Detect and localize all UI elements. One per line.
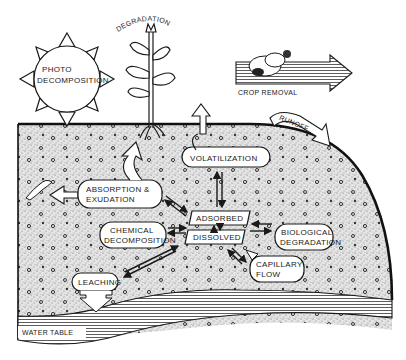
capillary-flow-label-2: FLOW xyxy=(256,270,280,279)
biological-degradation-box: BIOLOGICAL DEGRADATION xyxy=(275,224,341,250)
photo-decomposition-label-2: DECOMPOSITION xyxy=(37,76,109,85)
adsorbed-label: ADSORBED xyxy=(196,214,243,223)
photo-decomposition-label-1: PHOTO xyxy=(42,65,72,74)
chemical-decomposition-label-1: CHEMICAL xyxy=(110,226,154,235)
biological-degradation-label-1: BIOLOGICAL xyxy=(281,228,333,237)
capillary-flow-label-1: CAPILLARY xyxy=(256,260,303,269)
plant-icon: DEGRADATION xyxy=(115,15,175,140)
soil-fate-diagram: WATER TABLE PHOTO DECOMPOSITION DEGRADAT… xyxy=(0,0,406,360)
absorption-label-2: EXUDATION xyxy=(86,195,135,204)
degradation-plant-label: DEGRADATION xyxy=(115,15,172,33)
water-table-label: WATER TABLE xyxy=(22,329,73,336)
biological-degradation-label-2: DEGRADATION xyxy=(280,238,341,247)
leaching-label: LEACHING xyxy=(78,278,121,287)
absorption-label-1: ABSORPTION & xyxy=(86,185,150,194)
sun-icon: PHOTO DECOMPOSITION xyxy=(20,33,114,126)
chemical-decomposition-label-2: DECOMPOSITION xyxy=(104,236,176,245)
volatilization-label: VOLATILIZATION xyxy=(190,154,257,163)
crop-removal-label: CROP REMOVAL xyxy=(238,89,297,96)
dissolved-label: DISSOLVED xyxy=(193,233,241,242)
crop-removal-arrow: CROP REMOVAL xyxy=(236,50,352,96)
